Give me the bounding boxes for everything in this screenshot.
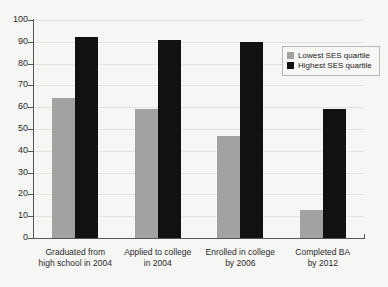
y-axis-tick bbox=[28, 129, 33, 130]
legend-label-highest: Highest SES quartile bbox=[298, 61, 372, 70]
y-axis-tick bbox=[28, 64, 33, 65]
y-axis-labels: 0102030405060708090100 bbox=[0, 0, 28, 287]
y-axis-tick-label: 40 bbox=[4, 146, 28, 155]
y-axis-tick bbox=[28, 42, 33, 43]
y-axis-tick bbox=[28, 85, 33, 86]
y-axis-tick bbox=[28, 107, 33, 108]
x-axis-label-line: by 2012 bbox=[273, 258, 373, 269]
y-axis-tick bbox=[28, 194, 33, 195]
y-axis-tick bbox=[28, 20, 33, 21]
legend-swatch-icon-lowest bbox=[287, 52, 294, 59]
y-axis-tick-label: 50 bbox=[4, 124, 28, 133]
x-axis-label-line: Completed BA bbox=[273, 247, 373, 258]
y-axis-tick-label: 80 bbox=[4, 59, 28, 68]
y-axis-tick bbox=[28, 216, 33, 217]
y-axis-tick-label: 100 bbox=[4, 15, 28, 24]
y-axis-line bbox=[33, 19, 34, 239]
y-axis-tick-label: 90 bbox=[4, 37, 28, 46]
y-axis-tick-label: 10 bbox=[4, 211, 28, 220]
legend-item-highest: Highest SES quartile bbox=[287, 61, 375, 70]
grid-line bbox=[34, 20, 364, 21]
legend-swatch-icon-highest bbox=[287, 62, 294, 69]
bar-high-ses-2 bbox=[240, 42, 263, 238]
bar-low-ses-2 bbox=[217, 136, 240, 238]
y-axis-tick-label: 60 bbox=[4, 102, 28, 111]
y-axis-tick bbox=[28, 238, 33, 239]
y-axis-tick-label: 70 bbox=[4, 80, 28, 89]
chart-legend: Lowest SES quartile Highest SES quartile bbox=[282, 46, 380, 76]
bar-high-ses-3 bbox=[323, 109, 346, 238]
y-axis-tick-label: 20 bbox=[4, 189, 28, 198]
bar-high-ses-1 bbox=[158, 40, 181, 238]
x-axis-end-cap bbox=[364, 234, 365, 239]
y-axis-tick-label: 0 bbox=[4, 233, 28, 242]
y-axis-tick-label: 30 bbox=[4, 168, 28, 177]
bar-chart: 0102030405060708090100 Lowest SES quarti… bbox=[0, 0, 388, 287]
bar-low-ses-1 bbox=[135, 109, 158, 238]
bar-low-ses-3 bbox=[300, 210, 323, 238]
x-axis-line bbox=[33, 238, 365, 239]
x-axis-category-label-3: Completed BAby 2012 bbox=[273, 247, 373, 268]
legend-label-lowest: Lowest SES quartile bbox=[298, 51, 370, 60]
bar-high-ses-0 bbox=[75, 37, 98, 238]
y-axis-tick bbox=[28, 151, 33, 152]
legend-item-lowest: Lowest SES quartile bbox=[287, 51, 375, 60]
bar-low-ses-0 bbox=[52, 98, 75, 238]
y-axis-tick bbox=[28, 173, 33, 174]
